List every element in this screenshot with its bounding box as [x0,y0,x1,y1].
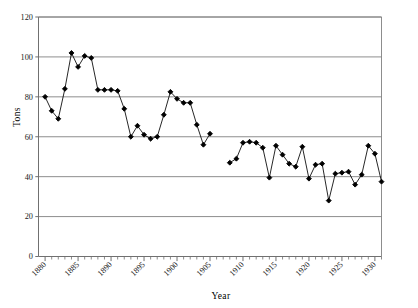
svg-text:1915: 1915 [261,260,279,278]
svg-text:100: 100 [21,53,33,62]
x-axis-ticks: 1880188518901895190019051910191519201925… [30,257,382,279]
svg-text:1900: 1900 [162,260,180,278]
svg-text:1910: 1910 [228,260,246,278]
svg-text:60: 60 [25,133,33,142]
svg-text:80: 80 [25,93,33,102]
line-chart-svg: 020406080100120 188018851890189519001905… [0,0,418,308]
svg-text:1905: 1905 [195,260,213,278]
svg-text:1920: 1920 [294,260,312,278]
svg-text:1890: 1890 [96,260,114,278]
svg-text:1880: 1880 [30,260,48,278]
x-axis-label: Year [0,291,418,301]
y-axis-ticks: 020406080100120 [21,13,39,262]
data-markers [43,50,384,203]
gridlines [39,17,382,217]
svg-text:0: 0 [29,252,33,261]
svg-text:1885: 1885 [63,260,81,278]
svg-text:20: 20 [25,212,33,221]
svg-text:40: 40 [25,173,33,182]
svg-text:120: 120 [21,13,33,22]
y-axis-label: Tons [12,87,22,147]
svg-text:1895: 1895 [129,260,147,278]
svg-text:1925: 1925 [327,260,345,278]
x-axis-label-text: Year [187,291,230,301]
svg-text:1930: 1930 [360,260,378,278]
data-line [45,53,381,201]
chart-container: 020406080100120 188018851890189519001905… [0,0,418,308]
